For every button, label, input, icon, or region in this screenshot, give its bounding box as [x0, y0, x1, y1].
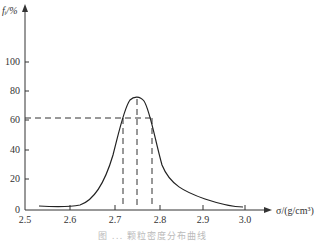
y-axis-title: fᵢ/% [2, 5, 17, 16]
y-ticks [25, 62, 29, 179]
y-tick-label: 20 [10, 173, 20, 184]
x-tick-label: 2.7 [109, 214, 122, 225]
y-tick-label: 80 [10, 85, 20, 96]
y-tick-label: 100 [5, 56, 20, 67]
distribution-curve [39, 97, 243, 207]
x-tick-label: 2.9 [197, 214, 210, 225]
x-tick-label: 3.0 [239, 214, 252, 225]
x-tick-label: 2.6 [64, 214, 77, 225]
x-tick-label: 2.8 [154, 214, 167, 225]
density-distribution-chart: 100 80 60 40 20 0 2.5 2.6 2.7 2.8 2.9 3.… [0, 0, 323, 243]
figure-caption: 图 ... 颗粒密度分布曲线 [98, 229, 207, 242]
x-tick-label: 2.5 [19, 214, 32, 225]
guide-lines [25, 99, 152, 208]
x-ticks [70, 205, 245, 210]
y-tick-label: 60 [10, 114, 20, 125]
y-axis-arrow-icon [22, 4, 28, 12]
x-axis-title: σ/(g/cm³) [276, 205, 314, 217]
x-axis-arrow-icon [264, 207, 272, 213]
y-tick-label: 40 [10, 144, 20, 155]
